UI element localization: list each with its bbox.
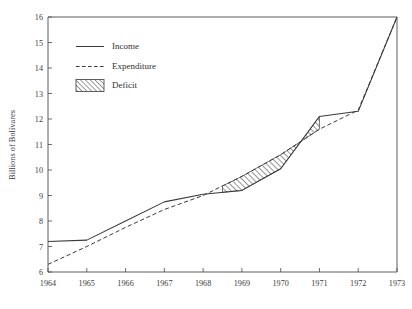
chart-figure: 678910111213141516 196419651966196719681…: [0, 0, 412, 309]
legend-entry-deficit: Deficit: [76, 80, 137, 92]
x-tick-label: 1969: [234, 279, 250, 288]
legend-swatch-hatched-box: [76, 80, 104, 92]
x-tick-label: 1964: [40, 279, 56, 288]
legend-label-deficit: Deficit: [112, 80, 137, 90]
x-axis-ticks: 1964196519661967196819691970197119721973: [40, 268, 405, 288]
deficit-shaded-region: [223, 116, 320, 192]
axes: 678910111213141516 196419651966196719681…: [35, 13, 405, 288]
series-line-expenditure: [48, 17, 397, 264]
plot-area: [48, 17, 397, 264]
x-tick-label: 1971: [311, 279, 327, 288]
y-tick-label: 15: [35, 39, 43, 48]
y-tick-label: 16: [35, 13, 43, 22]
legend-label-expenditure: Expenditure: [112, 61, 156, 71]
y-tick-label: 8: [39, 217, 43, 226]
y-tick-label: 13: [35, 90, 43, 99]
y-tick-label: 6: [39, 268, 43, 277]
y-tick-label: 10: [35, 166, 43, 175]
x-tick-label: 1967: [156, 279, 172, 288]
x-tick-label: 1970: [272, 279, 288, 288]
y-axis-title: Billions of Bolívares: [8, 110, 17, 180]
x-tick-label: 1968: [195, 279, 211, 288]
x-tick-label: 1972: [350, 279, 366, 288]
y-tick-label: 11: [35, 141, 43, 150]
y-tick-label: 7: [39, 243, 43, 252]
x-tick-label: 1973: [389, 279, 405, 288]
y-tick-label: 14: [35, 64, 43, 73]
legend-entry-expenditure: Expenditure: [76, 61, 156, 71]
deficit-hatched-area: [223, 116, 320, 192]
y-tick-label: 9: [39, 192, 43, 201]
legend-entry-income: Income: [76, 41, 139, 51]
y-axis-ticks: 678910111213141516: [35, 13, 52, 277]
legend-label-income: Income: [112, 41, 139, 51]
x-tick-label: 1966: [117, 279, 133, 288]
chart-legend: Income Expenditure Deficit: [76, 41, 156, 91]
x-tick-label: 1965: [79, 279, 95, 288]
series-line-income: [48, 17, 397, 241]
y-tick-label: 12: [35, 115, 43, 124]
line-chart: 678910111213141516 196419651966196719681…: [0, 0, 412, 309]
